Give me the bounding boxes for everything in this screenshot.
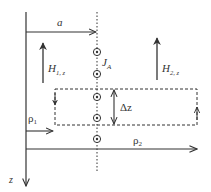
magnetic-field-diagram: z a JA H1, z H2, z Δz ρ1 ρ2 — [0, 0, 211, 192]
rho1-label: ρ1 — [28, 112, 38, 126]
delta-z-label: Δz — [120, 101, 132, 113]
current-out-icon — [93, 93, 100, 100]
current-out-icon — [93, 135, 100, 142]
distance-a-label: a — [57, 16, 63, 28]
z-axis-label: z — [8, 174, 13, 185]
current-out-icon — [93, 48, 100, 55]
h1-field-label: H1, z — [47, 62, 65, 76]
h2-field-label: H2, z — [161, 62, 179, 76]
rho2-label: ρ2 — [133, 134, 143, 148]
current-out-icon — [93, 114, 100, 121]
current-out-icon — [93, 70, 100, 77]
current-density-label: JA — [102, 56, 112, 71]
